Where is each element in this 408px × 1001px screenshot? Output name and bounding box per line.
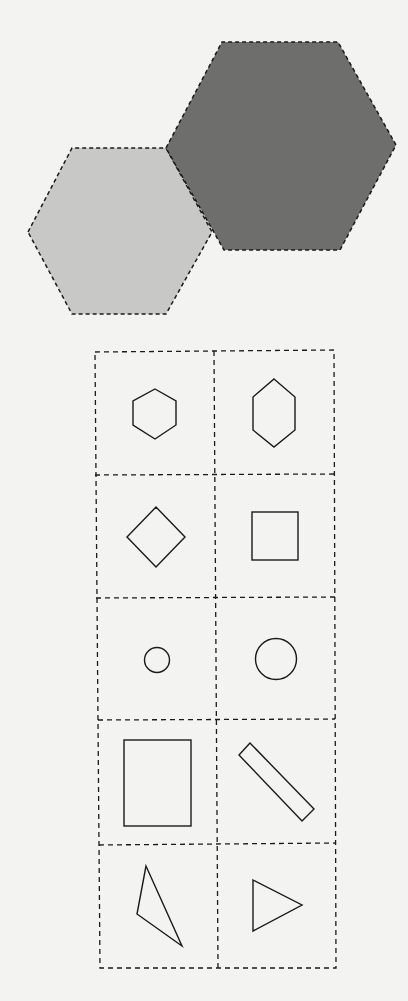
option-cell-4[interactable] bbox=[215, 475, 334, 597]
option-cell-9[interactable] bbox=[100, 846, 217, 967]
option-cell-2[interactable] bbox=[215, 352, 334, 474]
option-cell-1[interactable] bbox=[96, 353, 214, 474]
option-cell-6[interactable] bbox=[216, 598, 334, 719]
grid-row-divider bbox=[98, 719, 335, 720]
grid-row-divider bbox=[99, 843, 336, 845]
option-cell-8[interactable] bbox=[217, 720, 335, 843]
top-figure bbox=[28, 42, 396, 314]
grid-row-divider bbox=[96, 597, 335, 598]
option-cell-3[interactable] bbox=[96, 476, 214, 597]
grid-row-divider bbox=[95, 474, 335, 475]
option-cell-7[interactable] bbox=[98, 721, 215, 843]
puzzle-canvas bbox=[0, 0, 408, 1001]
option-cell-10[interactable] bbox=[219, 845, 336, 967]
option-cell-5[interactable] bbox=[97, 599, 214, 719]
